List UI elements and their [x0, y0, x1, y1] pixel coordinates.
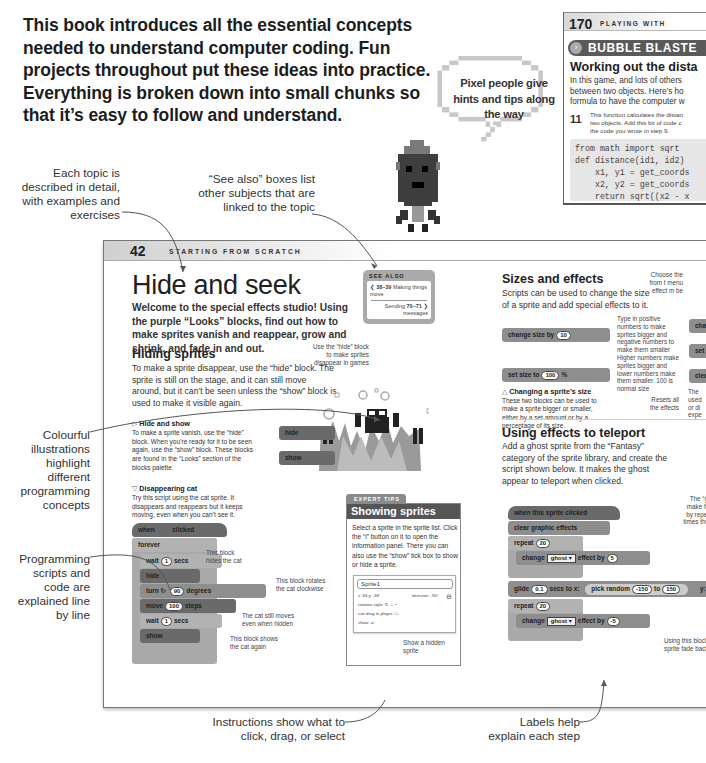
pick-max-input[interactable]: 150 [662, 585, 680, 594]
repeat-value-input[interactable]: 20 [536, 539, 551, 548]
size-value-input[interactable]: 100 [541, 371, 559, 380]
partial-block[interactable]: cha [689, 319, 706, 333]
when-sprite-clicked-block[interactable]: when this sprite clicked [508, 506, 620, 520]
partial-block[interactable]: set [689, 344, 706, 358]
hide-show-text: To make a sprite vanish, use the “hide” … [132, 429, 257, 473]
block-label: repeat [514, 539, 534, 546]
back-page-header: 170 PLAYING WITH [564, 13, 706, 31]
triangle-right-icon: ▷ [132, 420, 137, 427]
project-banner-title: BUBBLE BLASTE [588, 41, 697, 55]
effect-dropdown[interactable]: ghost ▾ [547, 617, 576, 626]
block-label: move [146, 602, 163, 609]
repeat-block[interactable]: repeat20 [508, 536, 583, 550]
illustration-label: Use the “hide” block to make sprites dis… [309, 343, 369, 366]
hide-block[interactable]: hide [279, 426, 335, 440]
forever-block[interactable]: forever [132, 538, 217, 552]
sprite-name-field[interactable]: Sprite1 [357, 579, 453, 589]
sizes-effects-text: Scripts can be used to change the size o… [502, 288, 652, 311]
move-value-input[interactable]: 100 [165, 602, 183, 611]
change-effect-block[interactable]: changeghost ▾effect by-5 [516, 614, 650, 628]
callout-labels: Labels help explain each step [480, 715, 580, 743]
page-section: STARTING FROM SCRATCH [169, 248, 302, 255]
block-label: turn [146, 587, 159, 594]
see-also-text: Sending [385, 303, 405, 309]
paragraph-line: between two objects. Here’s ho [570, 87, 706, 98]
block-label: secs [174, 557, 188, 564]
block-label: repeat [514, 602, 534, 609]
callout-see-also: “See also” boxes list other subjects tha… [185, 172, 315, 214]
when-flag-clicked-block[interactable]: when clicked [132, 523, 227, 537]
partial-text: The used or di expe [688, 388, 706, 419]
note-show-hidden: Show a hidden sprite [403, 639, 453, 655]
back-page-heading: Working out the dista [570, 60, 698, 74]
effect-value-input[interactable]: -5 [607, 617, 620, 626]
step-line: the code you wrote in step 9. [590, 127, 683, 135]
expert-tips-label: EXPERT TIPS [354, 496, 400, 502]
move-block[interactable]: move100steps [140, 599, 236, 613]
see-also-list: ❮ 38–39 Making things move Sending 70–71… [367, 281, 431, 319]
block-label: effect by [578, 617, 605, 624]
set-size-block[interactable]: set size to100% [502, 368, 610, 382]
block-label: % [561, 371, 567, 378]
repeat-block[interactable]: repeat20 [508, 599, 583, 613]
rotation-style-label: rotation style: ↻ ↔ • [358, 602, 397, 607]
chevron-right-icon: › [570, 42, 582, 54]
turn-block[interactable]: turn ↻ 90degrees [140, 584, 266, 598]
teleport-heading: Using effects to teleport [502, 426, 645, 440]
teleport-text: Add a ghost sprite from the “Fantasy” ca… [502, 441, 677, 487]
drag-checkbox[interactable]: ☐ [395, 611, 399, 616]
divider [502, 419, 706, 420]
pick-min-input[interactable]: -150 [632, 585, 652, 594]
main-page-preview: 42 STARTING FROM SCRATCH Hide and seek W… [103, 240, 706, 708]
block-label: to [654, 585, 660, 592]
note-positive-negative: Type in positive numbers to make sprites… [617, 315, 679, 354]
pick-random-block[interactable]: pick random-150to150 [585, 584, 688, 595]
changing-size-heading: Changing a sprite’s size [509, 387, 591, 396]
callout-topic-detail: Each topic is described in detail, with … [5, 166, 120, 222]
block-label: change size by [508, 331, 554, 338]
changing-size-section: △ Changing a sprite’s size These two blo… [502, 388, 602, 431]
see-also-item[interactable]: Sending 70–71 ❯ messages [385, 303, 428, 317]
show-label: show: ☑ [358, 620, 374, 625]
paragraph-line: In this game, and lots of others [570, 76, 706, 87]
see-also-item[interactable]: ❮ 38–39 Making things move [370, 284, 431, 298]
direction-dial-icon[interactable]: ⊖ [446, 593, 452, 601]
turn-value-input[interactable]: 90 [170, 587, 185, 596]
glide-block[interactable]: glide0.1secs to x: pick random-150to150 … [508, 581, 706, 597]
see-also-pages: 70–71 ❯ [407, 303, 428, 309]
sizes-effects-heading: Sizes and effects [502, 272, 603, 286]
wait-block[interactable]: wait1secs [140, 614, 222, 628]
drag-text: can drag in player: [358, 611, 393, 616]
expert-tips-title: Showing sprites [351, 505, 436, 517]
note-ghost-effect: The “ghost” effect make fade slightly; b… [679, 495, 706, 534]
block-label: when [138, 526, 155, 533]
rotation-style-icons[interactable]: ↻ ↔ • [385, 602, 397, 607]
note-rotates: This block rotates the cat clockwise [276, 577, 326, 593]
effect-dropdown[interactable]: ghost ▾ [547, 554, 576, 563]
clear-effects-block[interactable]: clear graphic effects [508, 521, 610, 535]
step-line: This function calculates the distan [590, 111, 683, 119]
block-label: wait [146, 557, 159, 564]
size-value-input[interactable]: 10 [556, 331, 571, 340]
partial-block[interactable]: clea [689, 369, 706, 383]
disappearing-cat-heading: Disappearing cat [139, 484, 197, 493]
repeat-value-input[interactable]: 20 [536, 602, 551, 611]
note-higher-lower: Higher numbers make sprites bigger and l… [617, 354, 679, 393]
effect-value-input[interactable]: 5 [607, 554, 618, 563]
rotate-clockwise-icon: ↻ [160, 587, 165, 594]
block-label: effect by [578, 554, 605, 561]
show-block[interactable]: show [279, 451, 335, 465]
show-checkbox[interactable]: ☑ [370, 620, 374, 625]
divider [371, 300, 427, 301]
change-effect-block[interactable]: changeghost ▾effect by5 [516, 551, 650, 565]
wait-value-input[interactable]: 1 [161, 557, 172, 566]
show-block[interactable]: show [140, 629, 200, 643]
triangle-down-icon: ▽ [132, 485, 137, 492]
sprite-info-panel: Sprite1 x: 84 y: -69 direction: -90° ⊖ r… [353, 575, 456, 633]
hide-show-section: ▷ Hide and show To make a sprite vanish,… [132, 420, 257, 473]
wait-value-input[interactable]: 1 [161, 617, 172, 626]
glide-value-input[interactable]: 0.1 [531, 585, 547, 594]
note-moves: The cat still moves even when hidden [242, 612, 297, 628]
hide-block[interactable]: hide [140, 569, 200, 583]
change-size-block[interactable]: change size by10 [502, 328, 610, 342]
